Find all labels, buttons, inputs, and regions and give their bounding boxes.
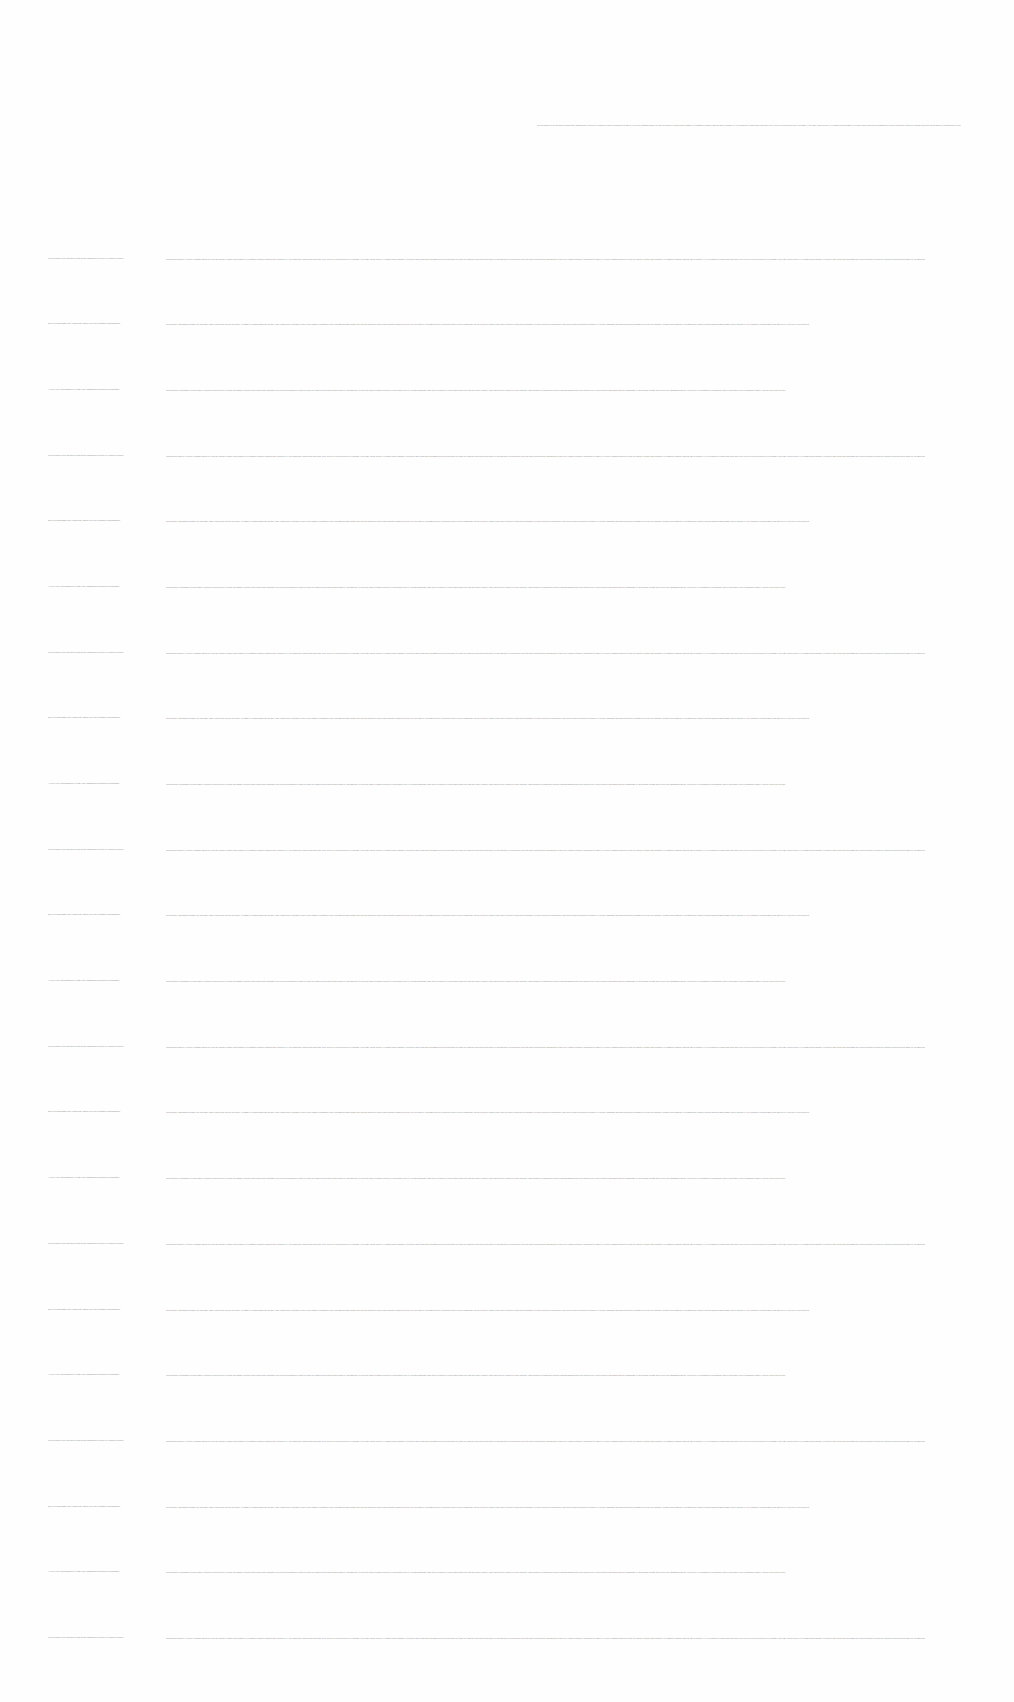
document-row: Sed ut perspiciatis unde omnis iste natu… (48, 1306, 966, 1372)
row-leading-text: Lorem ipsum dolor sit amet consectetur a… (48, 255, 166, 261)
row-body-text: doloremque laudantium totam rem aperiam … (166, 912, 966, 918)
row-body-text: doloremque laudantium totam rem aperiam … (166, 1307, 966, 1313)
document-row: At vero eos et accusamus et iusto odio d… (48, 1372, 966, 1438)
row-leading-text: At vero eos et accusamus et iusto odio d… (48, 583, 166, 589)
row-leading-text: Lorem ipsum dolor sit amet consectetur a… (48, 1240, 166, 1246)
row-leading-text: At vero eos et accusamus et iusto odio d… (48, 1174, 166, 1180)
row-body-text: incididunt ut labore et dolore magna ali… (166, 1241, 966, 1247)
document-row: Sed ut perspiciatis unde omnis iste natu… (48, 1109, 966, 1175)
row-leading-text: Sed ut perspiciatis unde omnis iste natu… (48, 1108, 166, 1114)
row-body-text: praesentium voluptatum deleniti atque co… (166, 1372, 966, 1378)
row-body-text: doloremque laudantium totam rem aperiam … (166, 321, 966, 327)
row-leading-text: Lorem ipsum dolor sit amet consectetur a… (48, 1043, 166, 1049)
document-row: Sed ut perspiciatis unde omnis iste natu… (48, 1503, 966, 1569)
row-body-text: doloremque laudantium totam rem aperiam … (166, 518, 966, 524)
document-row: Lorem ipsum dolor sit amet consectetur a… (48, 255, 966, 321)
row-body-text: doloremque laudantium totam rem aperiam … (166, 1109, 966, 1115)
row-leading-text: Lorem ipsum dolor sit amet consectetur a… (48, 1437, 166, 1443)
row-body-text: incididunt ut labore et dolore magna ali… (166, 650, 966, 656)
document-row: Lorem ipsum dolor sit amet consectetur a… (48, 452, 966, 518)
document-row: Sed ut perspiciatis unde omnis iste natu… (48, 518, 966, 584)
row-body-text: praesentium voluptatum deleniti atque co… (166, 584, 966, 590)
row-body-text: incididunt ut labore et dolore magna ali… (166, 1044, 966, 1050)
row-leading-text: At vero eos et accusamus et iusto odio d… (48, 386, 166, 392)
row-leading-text: Sed ut perspiciatis unde omnis iste natu… (48, 1503, 166, 1509)
document-row: Sed ut perspiciatis unde omnis iste natu… (48, 912, 966, 978)
document-row: At vero eos et accusamus et iusto odio d… (48, 978, 966, 1044)
row-leading-text: Sed ut perspiciatis unde omnis iste natu… (48, 320, 166, 326)
row-body-text: incididunt ut labore et dolore magna ali… (166, 1438, 966, 1444)
row-leading-text: Lorem ipsum dolor sit amet consectetur a… (48, 1634, 166, 1640)
row-leading-text: Sed ut perspiciatis unde omnis iste natu… (48, 714, 166, 720)
row-body-text: doloremque laudantium totam rem aperiam … (166, 715, 966, 721)
row-leading-text: Sed ut perspiciatis unde omnis iste natu… (48, 1306, 166, 1312)
document-rows: Lorem ipsum dolor sit amet consectetur a… (48, 255, 966, 1700)
row-body-text: incididunt ut labore et dolore magna ali… (166, 453, 966, 459)
document-row: At vero eos et accusamus et iusto odio d… (48, 583, 966, 649)
document-row: At vero eos et accusamus et iusto odio d… (48, 1569, 966, 1635)
row-body-text: incididunt ut labore et dolore magna ali… (166, 847, 966, 853)
row-leading-text: Sed ut perspiciatis unde omnis iste natu… (48, 911, 166, 917)
document-header-text: Lorem ipsum dolor sit amet consectetur a… (537, 122, 961, 128)
document-row: Lorem ipsum dolor sit amet consectetur a… (48, 1437, 966, 1503)
row-body-text: doloremque laudantium totam rem aperiam … (166, 1504, 966, 1510)
row-body-text: praesentium voluptatum deleniti atque co… (166, 387, 966, 393)
document-row: Lorem ipsum dolor sit amet consectetur a… (48, 1043, 966, 1109)
row-leading-text: At vero eos et accusamus et iusto odio d… (48, 1371, 166, 1377)
row-leading-text: Sed ut perspiciatis unde omnis iste natu… (48, 517, 166, 523)
row-body-text: incididunt ut labore et dolore magna ali… (166, 256, 966, 262)
document-row: Lorem ipsum dolor sit amet consectetur a… (48, 846, 966, 912)
document-row: Lorem ipsum dolor sit amet consectetur a… (48, 1240, 966, 1306)
document-row: Lorem ipsum dolor sit amet consectetur a… (48, 649, 966, 715)
row-leading-text: Lorem ipsum dolor sit amet consectetur a… (48, 649, 166, 655)
document-row: At vero eos et accusamus et iusto odio d… (48, 781, 966, 847)
row-body-text: praesentium voluptatum deleniti atque co… (166, 1569, 966, 1575)
row-body-text: incididunt ut labore et dolore magna ali… (166, 1635, 966, 1641)
row-body-text: praesentium voluptatum deleniti atque co… (166, 1175, 966, 1181)
document-row: Sed ut perspiciatis unde omnis iste natu… (48, 321, 966, 387)
row-leading-text: At vero eos et accusamus et iusto odio d… (48, 977, 166, 983)
row-body-text: praesentium voluptatum deleniti atque co… (166, 978, 966, 984)
row-leading-text: Lorem ipsum dolor sit amet consectetur a… (48, 452, 166, 458)
row-leading-text: At vero eos et accusamus et iusto odio d… (48, 780, 166, 786)
row-body-text: praesentium voluptatum deleniti atque co… (166, 781, 966, 787)
row-leading-text: Lorem ipsum dolor sit amet consectetur a… (48, 846, 166, 852)
document-row: Sed ut perspiciatis unde omnis iste natu… (48, 715, 966, 781)
document-row: At vero eos et accusamus et iusto odio d… (48, 386, 966, 452)
document-row: Lorem ipsum dolor sit amet consectetur a… (48, 1634, 966, 1700)
row-leading-text: At vero eos et accusamus et iusto odio d… (48, 1568, 166, 1574)
document-row: At vero eos et accusamus et iusto odio d… (48, 1175, 966, 1241)
